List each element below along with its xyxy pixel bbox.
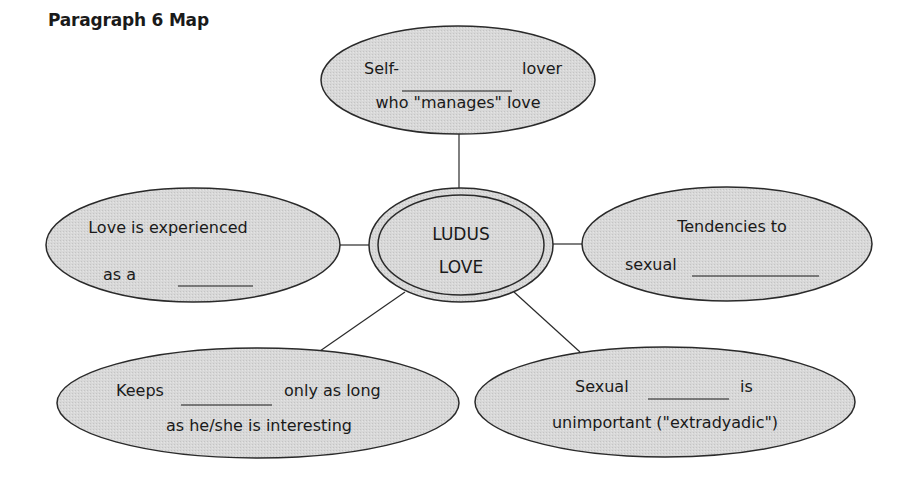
node-bottom-left-ellipse	[57, 348, 459, 458]
node-right-line2-pre: sexual	[625, 255, 677, 274]
node-center-outer	[369, 188, 553, 302]
node-right: Tendencies to sexual	[582, 187, 872, 301]
center-line1: LUDUS	[432, 224, 489, 244]
node-left-ellipse	[46, 188, 340, 302]
node-left-line2-pre: as a	[103, 265, 136, 284]
node-top-line2: who "manages" love	[375, 93, 540, 112]
node-left: Love is experienced as a	[46, 188, 340, 302]
node-top: Self- lover who "manages" love	[321, 26, 595, 134]
node-bottom-right-line2: unimportant ("extradyadic")	[552, 413, 778, 432]
node-right-ellipse	[582, 187, 872, 301]
node-top-ellipse	[321, 26, 595, 134]
connector-bottom-right	[514, 292, 580, 352]
node-bottom-right-line1-pre: Sexual	[575, 377, 629, 396]
node-bottom-left: Keeps only as long as he/she is interest…	[57, 348, 459, 458]
node-bottom-right: Sexual is unimportant ("extradyadic")	[475, 347, 855, 457]
node-bottom-left-line1-post: only as long	[284, 381, 381, 400]
node-top-line1-post: lover	[522, 59, 563, 78]
node-bottom-left-line2: as he/she is interesting	[166, 416, 352, 435]
node-center: LUDUS LOVE	[369, 188, 553, 302]
node-bottom-right-ellipse	[475, 347, 855, 457]
connector-bottom-left	[320, 292, 405, 351]
node-left-line1: Love is experienced	[88, 218, 248, 237]
node-top-line1-pre: Self-	[364, 59, 399, 78]
concept-map: Self- lover who "manages" love Love is e…	[0, 0, 917, 478]
node-right-line1: Tendencies to	[676, 217, 787, 236]
center-line2: LOVE	[439, 257, 483, 277]
node-bottom-left-line1-pre: Keeps	[116, 381, 164, 400]
node-bottom-right-line1-post: is	[740, 377, 753, 396]
